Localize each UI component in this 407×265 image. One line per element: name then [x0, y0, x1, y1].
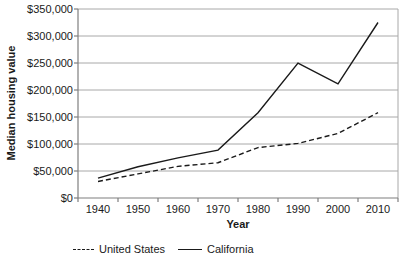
x-tick-label: 1950 [116, 203, 160, 215]
dashed-line-sample [73, 249, 94, 250]
x-tick-label: 1940 [76, 203, 120, 215]
x-tick-label: 2000 [316, 203, 360, 215]
y-tick-label: $200,000 [3, 84, 73, 96]
x-axis-title: Year [226, 218, 249, 230]
y-tick-label: $250,000 [3, 57, 73, 69]
y-tick-label: $100,000 [3, 138, 73, 150]
legend: United States California [73, 243, 254, 255]
x-tick-label: 1960 [156, 203, 200, 215]
y-tick-label: $50,000 [3, 165, 73, 177]
x-tick-label: 1970 [196, 203, 240, 215]
y-tick-label: $300,000 [3, 30, 73, 42]
solid-line-sample [178, 249, 202, 250]
legend-label-united-states: United States [99, 243, 165, 255]
california-line [98, 23, 378, 179]
x-tick-label: 1980 [236, 203, 280, 215]
y-tick-label: $350,000 [3, 3, 73, 15]
x-tick-label: 2010 [356, 203, 400, 215]
x-tick-label: 1990 [276, 203, 320, 215]
legend-item-united-states: United States [73, 243, 165, 255]
y-tick-label: $0 [3, 192, 73, 204]
legend-label-california: California [207, 243, 253, 255]
y-tick-label: $150,000 [3, 111, 73, 123]
legend-item-california: California [178, 243, 253, 255]
median-housing-value-chart: Median housing value $0$50,000$100,000$1… [0, 0, 407, 265]
